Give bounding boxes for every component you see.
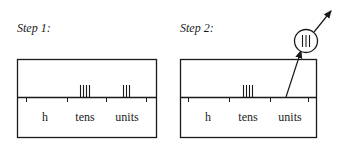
step1-board — [17, 60, 157, 138]
step1-label-h: h — [25, 110, 65, 125]
step2-tens-counters — [244, 85, 253, 97]
step1-label-tens: tens — [65, 110, 105, 125]
step1-tens-counters — [81, 85, 90, 97]
step2-label-tens: tens — [228, 110, 268, 125]
step2-label-units: units — [270, 110, 310, 125]
step2-label-h: h — [188, 110, 228, 125]
step1-label-units: units — [107, 110, 147, 125]
step2-board — [180, 60, 317, 138]
arrow-out-icon — [314, 11, 331, 32]
step1-units-counters — [124, 85, 130, 97]
arrow-to-group-icon — [286, 51, 301, 97]
removed-group-circle — [295, 30, 318, 53]
